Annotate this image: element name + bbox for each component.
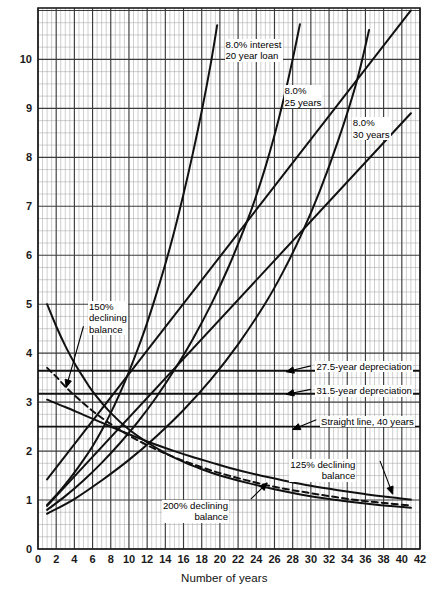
annotation-line: 20 year loan <box>226 50 282 61</box>
annotation-line: balance <box>89 324 127 335</box>
annotation-line: 8.0% <box>285 85 322 96</box>
chart-figure: 012345678910 024681012141618202224262830… <box>0 0 432 591</box>
annotation-31-5-year-depreciation: 31.5-year depreciation <box>315 385 412 396</box>
annotation-200-declining-balance: 200% declining balance <box>162 500 229 523</box>
x-tick-label: 42 <box>409 554 431 565</box>
y-tick-label: 8 <box>2 152 32 162</box>
annotation-line: 125% declining <box>290 459 355 470</box>
y-tick-label: 1 <box>2 495 32 505</box>
annotation-line: declining <box>89 312 127 323</box>
annotation-20-year-loan: 8.0% interest 20 year loan <box>225 39 283 62</box>
annotation-line: 200% declining <box>163 500 228 511</box>
annotation-line: 8.0% <box>353 117 390 128</box>
y-tick-label: 6 <box>2 250 32 260</box>
annotation-line: 150% <box>89 301 127 312</box>
annotation-27-5-year-depreciation: 27.5-year depreciation <box>315 361 412 372</box>
y-tick-label: 5 <box>2 299 32 309</box>
annotation-line: balance <box>163 511 228 522</box>
curve-8.0% 25 years <box>47 24 300 510</box>
y-tick-label: 7 <box>2 201 32 211</box>
annotation-125-declining-balance: 125% declining balance <box>289 459 356 482</box>
annotation-150-declining-balance: 150% declining balance <box>88 301 128 335</box>
annotation-line: 30 years <box>353 129 390 140</box>
y-tick-label: 4 <box>2 348 32 358</box>
annotation-line: 8.0% interest <box>226 39 282 50</box>
y-tick-label: 10 <box>2 54 32 64</box>
y-tick-label: 9 <box>2 103 32 113</box>
annotation-25-years: 8.0% 25 years <box>284 85 323 108</box>
y-tick-label: 3 <box>2 397 32 407</box>
x-axis-title: Number of years <box>181 572 268 584</box>
annotation-line: 25 years <box>285 97 322 108</box>
annotation-30-years: 8.0% 30 years <box>352 117 391 140</box>
annotation-straight-line-40-years: Straight line, 40 years <box>320 416 415 427</box>
annotation-line: balance <box>290 470 355 481</box>
y-tick-label: 0 <box>2 544 32 554</box>
y-tick-label: 2 <box>2 446 32 456</box>
